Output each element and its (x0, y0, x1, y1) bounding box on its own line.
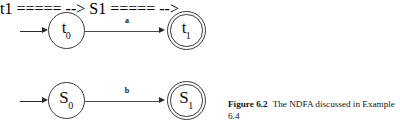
start-arrow-shaft (20, 101, 44, 102)
start-arrow-shaft (20, 31, 44, 32)
transition-label-a: a (115, 16, 139, 26)
state-node-s0[interactable]: S0 (48, 82, 85, 119)
state-node-s1[interactable]: S1 (167, 81, 206, 120)
state-label-t1: t1 (168, 19, 205, 42)
figure-container: t1 ===== --> t0 a t1 S1 ===== --> S0 (0, 0, 400, 139)
state-subscript-t1: 1 (186, 30, 191, 41)
figure-number: Figure 6.2 (228, 99, 268, 109)
state-subscript-t0: 0 (66, 30, 71, 41)
state-label-s0: S0 (49, 89, 84, 112)
state-node-t0[interactable]: t0 (48, 12, 85, 49)
state-label-t0: t0 (49, 19, 84, 42)
automaton-diagram-t: t0 a t1 (0, 3, 230, 59)
arrowhead-icon (159, 27, 165, 33)
transition-arrow-shaft (85, 31, 161, 32)
state-subscript-s1: 1 (188, 100, 193, 111)
transition-arrow-shaft (85, 101, 161, 102)
transition-label-b: b (115, 86, 139, 96)
transition-arrow-s0-s1 (85, 100, 165, 102)
start-arrow-t0 (20, 30, 48, 32)
state-subscript-s0: 0 (68, 100, 73, 111)
arrowhead-icon (159, 97, 165, 103)
state-label-s1: S1 (168, 89, 205, 112)
transition-arrow-t0-t1 (85, 30, 165, 32)
start-arrow-s0 (20, 100, 48, 102)
state-node-t1[interactable]: t1 (167, 11, 206, 50)
figure-caption: Figure 6.2The NDFA discussed in Example … (228, 99, 396, 122)
automaton-diagram-s: S0 b S1 (0, 73, 230, 129)
